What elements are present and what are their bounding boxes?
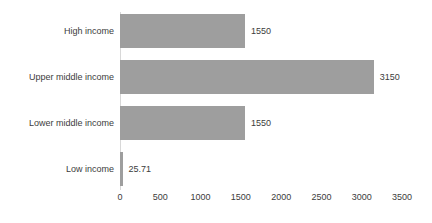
x-axis-tick-label: 3000: [352, 192, 372, 202]
bar[interactable]: [120, 152, 123, 186]
value-label: 1550: [251, 14, 271, 48]
value-label: 1550: [251, 106, 271, 140]
x-axis-tick-label: 500: [153, 192, 168, 202]
x-axis-tick-label: 1500: [231, 192, 251, 202]
category-label: High income: [4, 8, 114, 54]
x-axis-tick-label: 2500: [311, 192, 331, 202]
x-axis: 0500100015002000250030003500: [120, 192, 402, 212]
chart-row: Low income 25.71: [120, 146, 402, 192]
x-axis-tick-label: 1000: [191, 192, 211, 202]
plot-area: High income 1550 Upper middle income 315…: [120, 8, 402, 190]
value-label: 25.71: [129, 152, 152, 186]
chart-row: Upper middle income 3150: [120, 54, 402, 100]
category-label: Low income: [4, 146, 114, 192]
x-axis-tick-label: 3500: [392, 192, 412, 202]
bar-chart: High income 1550 Upper middle income 315…: [0, 0, 432, 223]
category-label: Lower middle income: [4, 100, 114, 146]
chart-row: Lower middle income 1550: [120, 100, 402, 146]
chart-row: High income 1550: [120, 8, 402, 54]
bar[interactable]: [120, 106, 245, 140]
x-axis-tick-label: 0: [117, 192, 122, 202]
value-label: 3150: [380, 60, 400, 94]
bar[interactable]: [120, 14, 245, 48]
bar[interactable]: [120, 60, 374, 94]
category-label: Upper middle income: [4, 54, 114, 100]
x-axis-tick-label: 2000: [271, 192, 291, 202]
